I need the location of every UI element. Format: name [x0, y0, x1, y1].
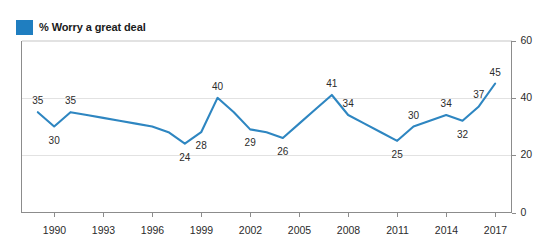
data-series — [38, 84, 495, 144]
x-tick-label: 2002 — [239, 224, 263, 236]
data-point-label: 30 — [49, 135, 61, 146]
data-point-label: 34 — [441, 98, 453, 109]
data-point-label: 28 — [196, 140, 208, 151]
x-axis-tick-labels: 1990199319961999200220052008201120142017 — [43, 224, 508, 236]
y-axis-tick-labels: 0204060 — [521, 34, 533, 218]
chart-axes — [22, 41, 516, 217]
data-point-label: 35 — [32, 95, 44, 106]
data-point-label: 40 — [212, 81, 224, 92]
x-tick-label: 1990 — [43, 224, 67, 236]
data-point-label: 35 — [65, 95, 77, 106]
x-tick-label: 2014 — [435, 224, 459, 236]
y-tick-label: 20 — [521, 148, 533, 160]
y-tick-label: 40 — [521, 91, 533, 103]
x-tick-label: 2017 — [484, 224, 508, 236]
data-point-label: 29 — [245, 137, 257, 148]
data-point-label: 37 — [473, 89, 485, 100]
data-point-label: 34 — [343, 98, 355, 109]
y-tick-label: 0 — [521, 206, 527, 218]
data-point-label: 24 — [179, 152, 191, 163]
data-point-label: 25 — [392, 149, 404, 160]
data-point-label: 32 — [457, 129, 469, 140]
x-tick-label: 2005 — [288, 224, 312, 236]
y-tick-label: 60 — [521, 34, 533, 46]
data-point-label: 26 — [277, 146, 289, 157]
x-tick-label: 2008 — [337, 224, 361, 236]
gridlines — [22, 41, 512, 156]
x-tick-label: 2011 — [386, 224, 409, 236]
data-point-labels: 35303524284029264134253034323745 — [32, 67, 501, 163]
data-point-label: 30 — [408, 110, 420, 121]
line-chart: % Worry a great deal 1990199319961999200… — [0, 0, 543, 246]
plot-area: 1990199319961999200220052008201120142017… — [0, 0, 543, 246]
series-line — [38, 84, 495, 144]
x-tick-label: 1999 — [190, 224, 214, 236]
x-tick-label: 1993 — [92, 224, 116, 236]
data-point-label: 41 — [326, 78, 338, 89]
data-point-label: 45 — [490, 67, 502, 78]
x-tick-label: 1996 — [141, 224, 165, 236]
